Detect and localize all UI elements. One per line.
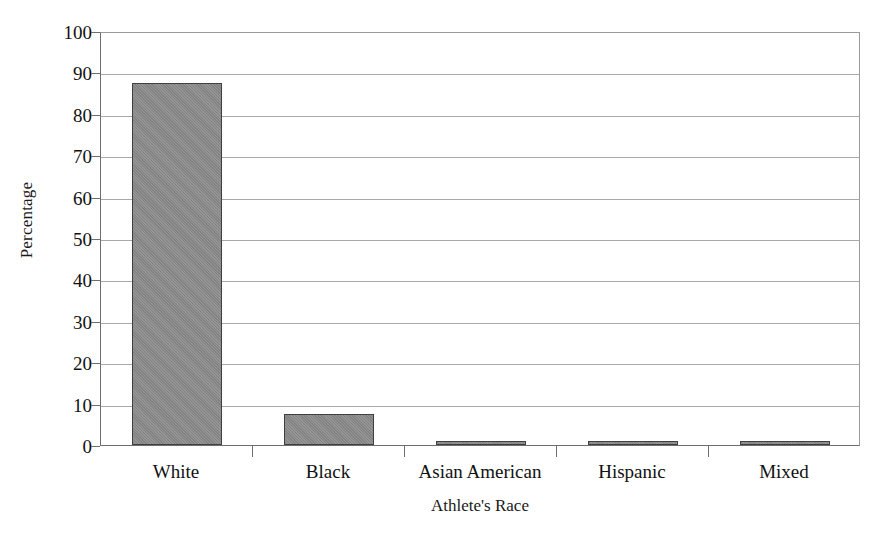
x-axis-tick-label: Mixed xyxy=(759,461,809,483)
y-axis-tick-label: 20 xyxy=(46,354,92,373)
y-axis-tick-label: 0 xyxy=(46,437,92,456)
y-axis-tick-label: 50 xyxy=(46,230,92,249)
y-axis-tick-mark xyxy=(91,239,100,240)
bar xyxy=(284,414,374,445)
y-axis-tick-mark xyxy=(91,405,100,406)
y-axis-tick-label: 10 xyxy=(46,395,92,414)
x-axis-tick-label: Hispanic xyxy=(598,461,666,483)
x-axis-tick-mark xyxy=(252,446,253,457)
y-axis-tick-mark xyxy=(91,32,100,33)
x-axis-tick-mark xyxy=(708,446,709,457)
y-axis-tick-mark xyxy=(91,280,100,281)
y-axis-tick-mark xyxy=(91,322,100,323)
x-axis-tick-label: White xyxy=(153,461,199,483)
y-axis-tick-label: 100 xyxy=(46,23,92,42)
y-axis-tick-label: 40 xyxy=(46,271,92,290)
bar xyxy=(588,441,678,445)
y-axis-tick-mark xyxy=(91,156,100,157)
bar xyxy=(740,441,830,445)
x-axis-title: Athlete's Race xyxy=(100,496,860,516)
x-axis-tick-label: Asian American xyxy=(419,461,542,483)
y-axis-tick-mark xyxy=(91,73,100,74)
y-axis-tick-label: 90 xyxy=(46,64,92,83)
bar xyxy=(436,441,526,445)
bar xyxy=(132,83,222,445)
y-axis-tick-label: 60 xyxy=(46,188,92,207)
x-axis-tick-label: Black xyxy=(306,461,350,483)
y-axis-tick-mark xyxy=(91,363,100,364)
y-axis-tick-mark xyxy=(91,446,100,447)
y-axis-tick-mark xyxy=(91,198,100,199)
y-axis-tick-mark xyxy=(91,115,100,116)
y-axis-title: Percentage xyxy=(10,0,44,440)
y-axis-tick-label: 80 xyxy=(46,105,92,124)
x-axis-tick-marks xyxy=(100,446,860,458)
bar-chart: Percentage 0102030405060708090100 WhiteB… xyxy=(0,0,887,545)
y-axis-tick-label: 30 xyxy=(46,312,92,331)
y-axis-tick-label: 70 xyxy=(46,147,92,166)
x-axis-tick-mark xyxy=(556,446,557,457)
x-axis-tick-mark xyxy=(404,446,405,457)
y-axis-tick-labels: 0102030405060708090100 xyxy=(42,0,92,545)
gridline xyxy=(101,74,859,75)
x-axis-tick-labels: WhiteBlackAsian AmericanHispanicMixed xyxy=(100,461,860,491)
plot-area xyxy=(100,32,860,446)
